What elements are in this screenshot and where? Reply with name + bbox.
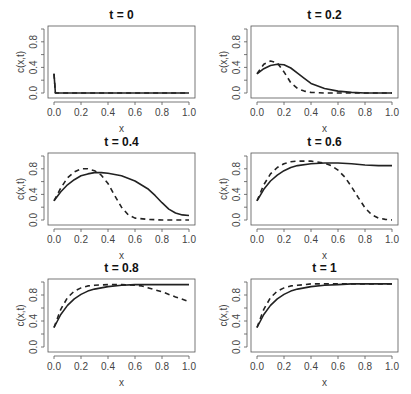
x-tick-label: 0.8: [155, 234, 169, 245]
panel-title: t = 1: [312, 261, 337, 275]
y-tick-label: 0.8: [231, 34, 242, 48]
y-axis-label: c(x,t): [15, 178, 26, 200]
figure: t = 00.00.20.40.60.81.0x0.00.40.8c(x,t)t…: [0, 0, 411, 394]
plot-frame: [251, 279, 398, 352]
x-tick-label: 0.4: [304, 107, 318, 118]
x-tick-label: 0.4: [304, 361, 318, 372]
solid-line: [54, 74, 189, 93]
x-axis-label: x: [119, 377, 124, 388]
x-tick-label: 0.2: [277, 234, 291, 245]
x-axis-label: x: [322, 250, 327, 261]
solid-line: [54, 285, 189, 328]
x-tick-label: 0.4: [101, 107, 115, 118]
solid-line: [54, 173, 189, 216]
x-tick-label: 0.6: [331, 107, 345, 118]
panel-title: t = 0.8: [104, 261, 139, 275]
y-axis-label: c(x,t): [218, 51, 229, 73]
x-tick-label: 0.6: [128, 107, 142, 118]
plot-frame: [48, 153, 195, 225]
panel-title: t = 0.2: [307, 8, 342, 22]
y-tick-label: 0.0: [231, 340, 242, 354]
panel-1: t = 0.20.00.20.40.60.81.0x0.00.40.8c(x,t…: [218, 8, 399, 134]
x-axis-label: x: [119, 250, 124, 261]
y-tick-label: 0.8: [231, 161, 242, 175]
x-tick-label: 0.4: [101, 361, 115, 372]
y-tick-label: 0.0: [28, 340, 39, 354]
y-tick-label: 0.8: [28, 34, 39, 48]
panel-title: t = 0.6: [307, 135, 342, 149]
x-tick-label: 1.0: [385, 361, 399, 372]
y-tick-label: 0.0: [28, 213, 39, 227]
x-tick-label: 1.0: [182, 107, 196, 118]
x-tick-label: 1.0: [385, 234, 399, 245]
y-tick-label: 0.4: [28, 314, 39, 328]
x-tick-label: 0.8: [155, 361, 169, 372]
y-tick-label: 0.4: [231, 314, 242, 328]
plot-frame: [48, 279, 195, 352]
x-axis-label: x: [322, 377, 327, 388]
y-axis-label: c(x,t): [15, 304, 26, 326]
solid-line: [257, 163, 392, 201]
x-tick-label: 0.0: [250, 361, 264, 372]
x-tick-label: 1.0: [385, 107, 399, 118]
x-tick-label: 0.2: [277, 107, 291, 118]
x-tick-label: 0.6: [331, 234, 345, 245]
panel-title: t = 0.4: [104, 135, 139, 149]
plot-frame: [48, 26, 195, 98]
dashed-line: [257, 284, 392, 328]
y-tick-label: 0.0: [28, 86, 39, 100]
x-tick-label: 0.4: [101, 234, 115, 245]
x-tick-label: 0.0: [47, 107, 61, 118]
solid-line: [257, 284, 392, 328]
x-tick-label: 0.8: [358, 361, 372, 372]
x-tick-label: 0.2: [277, 361, 291, 372]
x-tick-label: 0.4: [304, 234, 318, 245]
x-tick-label: 1.0: [182, 234, 196, 245]
x-tick-label: 0.0: [250, 234, 264, 245]
dashed-line: [54, 285, 189, 328]
x-tick-label: 0.0: [47, 234, 61, 245]
x-tick-label: 0.0: [47, 361, 61, 372]
panel-0: t = 00.00.20.40.60.81.0x0.00.40.8c(x,t): [15, 8, 196, 134]
x-tick-label: 0.2: [74, 107, 88, 118]
x-tick-label: 0.8: [358, 234, 372, 245]
x-tick-label: 0.8: [358, 107, 372, 118]
y-tick-label: 0.4: [231, 60, 242, 74]
solid-line: [257, 64, 392, 93]
panel-5: t = 10.00.20.40.60.81.0x0.00.40.8c(x,t): [218, 261, 399, 388]
y-axis-label: c(x,t): [218, 178, 229, 200]
x-axis-label: x: [119, 123, 124, 134]
dashed-line: [54, 74, 189, 93]
panel-3: t = 0.60.00.20.40.60.81.0x0.00.40.8c(x,t…: [218, 135, 399, 261]
x-axis-label: x: [322, 123, 327, 134]
y-tick-label: 0.0: [231, 213, 242, 227]
x-tick-label: 0.6: [128, 361, 142, 372]
y-tick-label: 0.8: [231, 288, 242, 302]
x-tick-label: 0.6: [128, 234, 142, 245]
y-tick-label: 0.4: [231, 187, 242, 201]
x-tick-label: 0.2: [74, 361, 88, 372]
y-tick-label: 0.0: [231, 86, 242, 100]
y-tick-label: 0.8: [28, 161, 39, 175]
x-tick-label: 1.0: [182, 361, 196, 372]
x-tick-label: 0.0: [250, 107, 264, 118]
y-tick-label: 0.4: [28, 60, 39, 74]
panel-title: t = 0: [109, 8, 134, 22]
y-tick-label: 0.8: [28, 288, 39, 302]
panel-4: t = 0.80.00.20.40.60.81.0x0.00.40.8c(x,t…: [15, 261, 196, 388]
x-tick-label: 0.6: [331, 361, 345, 372]
y-tick-label: 0.4: [28, 187, 39, 201]
panel-2: t = 0.40.00.20.40.60.81.0x0.00.40.8c(x,t…: [15, 135, 196, 261]
dashed-line: [257, 161, 392, 220]
x-tick-label: 0.8: [155, 107, 169, 118]
y-axis-label: c(x,t): [15, 51, 26, 73]
x-tick-label: 0.2: [74, 234, 88, 245]
y-axis-label: c(x,t): [218, 304, 229, 326]
